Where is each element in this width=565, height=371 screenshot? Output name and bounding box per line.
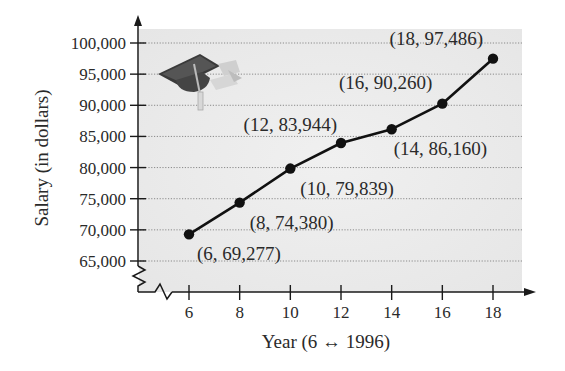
- data-point: [386, 124, 396, 134]
- x-tick-label: 16: [434, 303, 451, 322]
- y-tick-label: 95,000: [79, 65, 126, 84]
- point-label: (16, 90,260): [339, 72, 432, 94]
- y-tick-label: 90,000: [79, 96, 126, 115]
- salary-line-chart: 65,00070,00075,00080,00085,00090,00095,0…: [0, 0, 565, 371]
- y-ticks: 65,00070,00075,00080,00085,00090,00095,0…: [71, 34, 146, 271]
- x-tick-label: 18: [485, 303, 502, 322]
- y-tick-label: 75,000: [79, 190, 126, 209]
- point-label: (18, 97,486): [390, 28, 483, 50]
- x-axis-title: Year (6 ↔ 1996): [262, 331, 390, 353]
- y-tick-label: 65,000: [79, 252, 126, 271]
- point-label: (10, 79,839): [300, 178, 393, 200]
- x-tick-label: 12: [333, 303, 350, 322]
- y-tick-label: 85,000: [79, 127, 126, 146]
- x-tick-label: 10: [282, 303, 299, 322]
- data-point: [336, 138, 346, 148]
- y-tick-label: 80,000: [79, 159, 126, 178]
- y-tick-label: 70,000: [79, 221, 126, 240]
- point-label: (8, 74,380): [250, 212, 334, 234]
- point-label: (12, 83,944): [244, 114, 337, 136]
- data-point: [437, 98, 447, 108]
- data-point: [285, 163, 295, 173]
- data-point: [234, 197, 244, 207]
- y-tick-label: 100,000: [71, 34, 126, 53]
- x-tick-label: 8: [235, 303, 244, 322]
- y-axis-title: Salary (in dollars): [31, 89, 53, 226]
- data-point: [488, 53, 498, 63]
- point-label: (6, 69,277): [197, 243, 281, 265]
- x-tick-label: 6: [185, 303, 194, 322]
- point-label: (14, 86,160): [394, 138, 487, 160]
- x-tick-label: 14: [383, 303, 401, 322]
- data-point: [184, 229, 194, 239]
